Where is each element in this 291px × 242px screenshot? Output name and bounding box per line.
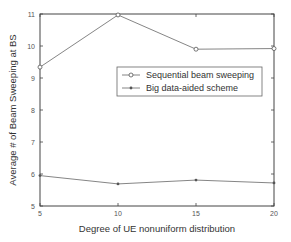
x-axis-label: Degree of UE nonuniform distribution [79,223,235,234]
x-tick-label: 15 [192,210,200,217]
circle-marker [38,65,42,69]
circle-marker [194,47,198,51]
legend-label: Sequential beam sweeping [146,70,254,80]
y-tick-label: 7 [31,139,35,146]
x-tick-label: 20 [270,210,278,217]
y-axis-label: Average # of Beam Sweeping at BS [7,34,18,185]
legend: Sequential beam sweepingBig data-aided s… [117,67,262,96]
data-series [38,13,276,185]
dot-marker [117,183,120,186]
legend-circle-marker [129,73,133,77]
axis-ticks: 5101520567891011 [27,11,278,218]
y-tick-label: 11 [28,11,35,18]
circle-marker [116,13,120,17]
dot-marker [273,182,276,185]
legend-dot-marker [130,87,133,90]
line-chart: 5101520567891011 Sequential beam sweepin… [0,0,291,242]
dot-marker [39,174,42,177]
y-tick-label: 10 [27,43,35,50]
plot-border [40,14,274,206]
x-tick-label: 5 [38,210,42,217]
series-line [40,176,274,184]
y-tick-label: 6 [31,171,35,178]
y-tick-label: 5 [31,203,35,210]
series-line [40,15,274,67]
circle-marker [272,47,276,51]
legend-label: Big data-aided scheme [146,83,238,93]
x-tick-label: 10 [114,210,122,217]
series-sequential-beam-sweeping [38,13,276,69]
dot-marker [195,179,198,182]
series-big-data-aided-scheme [39,174,276,185]
y-tick-label: 9 [31,75,35,82]
plot-frame [40,14,274,206]
y-tick-label: 8 [31,107,35,114]
